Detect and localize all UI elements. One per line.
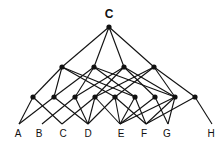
leaf-label-c: C [59, 128, 66, 139]
node-m1 [59, 64, 64, 69]
node-n3 [72, 94, 77, 99]
node-n8 [172, 94, 177, 99]
node-root [106, 24, 111, 29]
edge-root-m4 [109, 27, 154, 67]
lattice-diagram: C ABCDEFGH [0, 0, 224, 144]
node-m3 [121, 64, 126, 69]
leaf-label-f: F [141, 128, 147, 139]
node-m4 [151, 64, 156, 69]
edge-m4-n9 [154, 67, 195, 97]
edge-m4-n8 [154, 67, 175, 97]
leaf-label-a: A [15, 128, 22, 139]
root-label: C [105, 7, 114, 21]
leaf-label-h: H [207, 128, 214, 139]
leaf-labels: ABCDEFGH [15, 128, 215, 139]
leaf-label-g: G [163, 128, 171, 139]
node-m2 [91, 64, 96, 69]
node-n4 [92, 94, 97, 99]
edge-n9-H [195, 97, 212, 124]
leaf-label-b: B [36, 128, 43, 139]
node-n7 [152, 94, 157, 99]
leaf-label-d: D [84, 128, 91, 139]
leaf-label-e: E [118, 128, 125, 139]
edge-n2-A [19, 97, 54, 124]
node-n9 [192, 94, 197, 99]
edge-m4-n5 [115, 67, 154, 97]
node-n1 [30, 94, 35, 99]
node-n5 [112, 94, 117, 99]
node-n6 [132, 94, 137, 99]
edge-n8-E [120, 97, 175, 124]
edge-m2-n3 [75, 67, 94, 97]
edges [19, 27, 212, 124]
edge-n3-D [75, 97, 88, 124]
edge-m3-n8 [124, 67, 175, 97]
edge-n4-C [62, 97, 95, 124]
edge-n1-A [19, 97, 33, 124]
node-n2 [51, 94, 56, 99]
